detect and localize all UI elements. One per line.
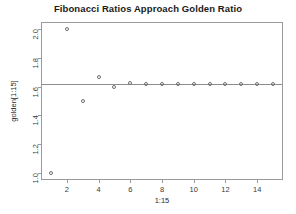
y-axis-tick-label: 1.6 xyxy=(31,87,40,97)
data-point xyxy=(271,82,275,86)
x-axis-tick-label: 4 xyxy=(96,185,100,194)
x-axis-tick-label: 12 xyxy=(221,185,229,194)
y-axis-tick-label: 2.0 xyxy=(31,29,40,39)
data-point xyxy=(160,82,164,86)
data-point xyxy=(208,82,212,86)
x-axis-tick-label: 14 xyxy=(253,185,261,194)
x-axis-title: 1:15 xyxy=(41,196,283,205)
x-axis-tick-label: 8 xyxy=(160,185,164,194)
x-axis-tick xyxy=(257,179,258,183)
y-axis-tick-label: 1.0 xyxy=(31,173,40,183)
x-axis-tick xyxy=(225,179,226,183)
data-point xyxy=(176,82,180,86)
data-point xyxy=(239,82,243,86)
x-axis-tick xyxy=(194,179,195,183)
y-axis-tick-label: 1.4 xyxy=(31,115,40,125)
x-axis-tick-label: 10 xyxy=(190,185,198,194)
y-axis-tick-label: 1.8 xyxy=(31,58,40,68)
plot-inner xyxy=(42,23,282,179)
y-axis-title: golden[1:15] xyxy=(9,80,18,121)
chart-title: Fibonacci Ratios Approach Golden Ratio xyxy=(0,3,296,14)
chart-figure: Fibonacci Ratios Approach Golden Ratio g… xyxy=(0,0,296,214)
data-point xyxy=(192,82,196,86)
y-axis-tick-label: 1.2 xyxy=(31,144,40,154)
x-axis-tick xyxy=(162,179,163,183)
data-point xyxy=(81,99,85,103)
x-axis-tick xyxy=(67,179,68,183)
data-point xyxy=(223,82,227,86)
data-point xyxy=(49,171,53,175)
plot-area: 1.01.21.41.61.82.02468101214 xyxy=(41,22,283,180)
data-point xyxy=(97,75,101,79)
data-point xyxy=(255,82,259,86)
x-axis-tick-label: 6 xyxy=(128,185,132,194)
data-point xyxy=(144,82,148,86)
data-point xyxy=(112,85,116,89)
x-axis-tick-label: 2 xyxy=(65,185,69,194)
x-axis-tick xyxy=(99,179,100,183)
data-point xyxy=(65,27,69,31)
x-axis-tick xyxy=(130,179,131,183)
